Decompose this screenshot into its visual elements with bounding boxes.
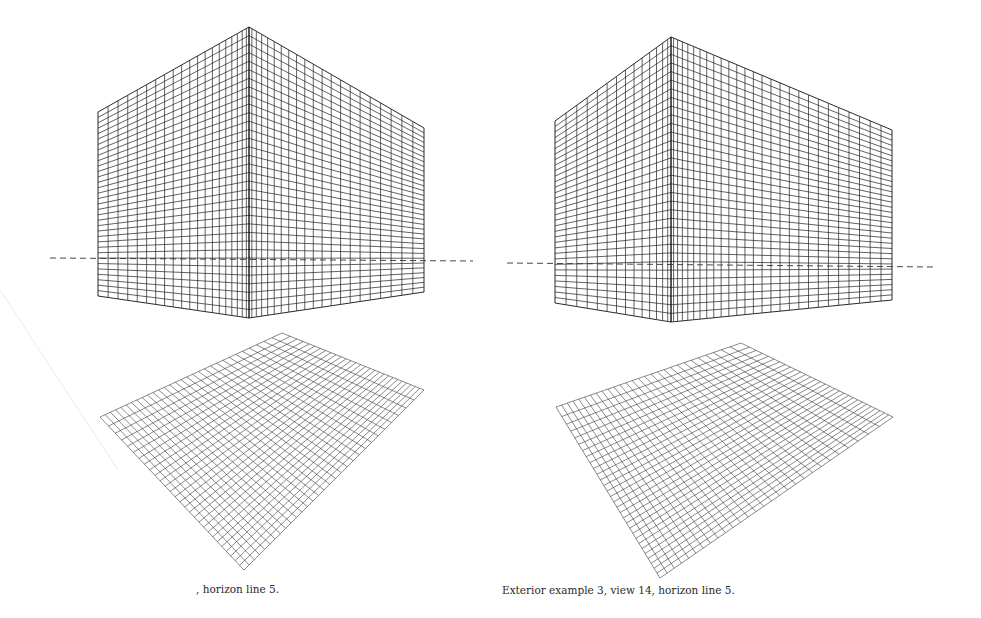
wall-grid-horizontal-line — [671, 274, 892, 279]
wall-grid-horizontal-line — [249, 78, 424, 157]
wall-grid-horizontal-line — [671, 80, 892, 156]
floor-grid-line — [244, 390, 424, 570]
wall-grid-horizontal-line — [555, 132, 671, 182]
wall-grid-horizontal-line — [555, 89, 671, 154]
wall-grid-horizontal-line — [249, 121, 424, 181]
wall-grid-horizontal-line — [249, 164, 424, 205]
floor-grid-line — [148, 395, 291, 523]
wall-grid-horizontal-line — [555, 149, 671, 192]
figure-caption-right: Exterior example 3, view 14, horizon lin… — [502, 584, 735, 596]
figure-left — [50, 27, 473, 570]
two-point-box-left — [98, 27, 424, 318]
floor-grid-line — [126, 405, 270, 544]
floor-grid-line — [185, 367, 366, 507]
wall-grid-horizontal-line — [249, 70, 424, 152]
wall-grid-horizontal-line — [555, 236, 671, 248]
wall-grid-horizontal-line — [671, 236, 892, 249]
wall-grid-horizontal-line — [671, 300, 892, 322]
wall-grid-horizontal-line — [555, 303, 671, 322]
wall-grid-horizontal-line — [555, 192, 671, 220]
floor-grid-line — [100, 333, 282, 417]
floor-grid-line — [226, 383, 406, 551]
wall-grid-horizontal-line — [555, 97, 671, 159]
wall-grid-horizontal-line — [671, 132, 892, 187]
wall-grid-horizontal-line — [249, 198, 424, 224]
wall-grid-horizontal-line — [671, 54, 892, 140]
floor-grid-line — [706, 355, 849, 448]
wall-grid-horizontal-line — [249, 138, 424, 190]
wall-grid-horizontal-line — [671, 89, 892, 161]
wall-grid-horizontal-line — [249, 27, 424, 128]
floor-grid-line — [556, 407, 660, 578]
wall-grid-horizontal-line — [671, 46, 892, 136]
wall-grid-horizontal-line — [249, 87, 424, 162]
floor-grid-line — [282, 333, 424, 390]
wall-grid-horizontal-line — [555, 244, 671, 253]
wall-grid-horizontal-line — [671, 141, 892, 192]
figure-caption-left: , horizon line 5. — [196, 583, 279, 595]
wall-grid-horizontal-line — [249, 53, 424, 143]
floor-grid-line — [562, 405, 667, 573]
wall-grid-horizontal-line — [555, 72, 671, 144]
wall-grid-horizontal-line — [249, 95, 424, 166]
wall-grid-horizontal-line — [249, 181, 424, 215]
floor-grid-line — [236, 354, 379, 435]
floor-grid-line — [198, 372, 341, 473]
perspective-diagram-canvas — [0, 0, 981, 618]
floor-grid-line — [223, 360, 366, 448]
floor-grid-left — [100, 333, 424, 570]
wall-grid-horizontal-line — [249, 147, 424, 196]
wall-grid-horizontal-line — [249, 44, 424, 138]
wall-grid-horizontal-line — [555, 63, 671, 138]
wall-grid-horizontal-line — [555, 184, 671, 215]
wall-grid-horizontal-line — [555, 37, 671, 121]
wall-grid-horizontal-line — [249, 250, 424, 254]
wall-grid-horizontal-line — [555, 106, 671, 165]
floor-grid-line — [664, 370, 796, 484]
paper-smudge-line — [0, 290, 118, 470]
wall-grid-horizontal-line — [249, 36, 424, 133]
wall-grid-horizontal-line — [249, 113, 424, 177]
floor-grid-line — [153, 393, 296, 518]
figure-right — [507, 37, 935, 578]
wall-grid-horizontal-line — [671, 290, 892, 305]
wall-grid-horizontal-line — [555, 123, 671, 176]
wall-grid-horizontal-line — [249, 292, 424, 318]
floor-grid-line — [272, 338, 414, 400]
wall-grid-horizontal-line — [671, 262, 892, 264]
floor-grid-line — [235, 387, 415, 561]
floor-grid-line — [556, 343, 741, 407]
wall-grid-horizontal-line — [555, 227, 671, 242]
wall-grid-horizontal-line — [555, 54, 671, 132]
floor-grid-line — [121, 407, 265, 549]
wall-grid-horizontal-line — [555, 275, 671, 278]
floor-grid-line — [638, 379, 763, 507]
wall-grid-horizontal-line — [555, 281, 671, 288]
wall-grid-horizontal-line — [249, 104, 424, 171]
wall-grid-horizontal-line — [555, 218, 671, 236]
floor-grid-line — [721, 350, 868, 434]
wall-grid-horizontal-line — [555, 210, 671, 232]
floor-grid-line — [204, 369, 347, 467]
floor-grid-line — [108, 336, 290, 426]
wall-grid-horizontal-line — [671, 115, 892, 177]
wall-grid-horizontal-line — [671, 192, 892, 222]
wall-grid-horizontal-line — [249, 263, 424, 267]
wall-grid-horizontal-line — [555, 292, 671, 305]
wall-grid-horizontal-line — [671, 184, 892, 218]
floor-grid-line — [175, 363, 356, 497]
wall-grid-horizontal-line — [555, 115, 671, 171]
wall-grid-horizontal-line — [555, 286, 671, 296]
wall-grid-horizontal-line — [249, 130, 424, 186]
wall-grid-horizontal-line — [671, 175, 892, 212]
floor-grid-line — [122, 342, 304, 440]
wall-grid-horizontal-line — [671, 201, 892, 228]
wall-grid-horizontal-line — [555, 253, 671, 259]
floor-grid-line — [614, 387, 733, 528]
floor-grid-line — [170, 361, 351, 492]
wall-grid-horizontal-line — [671, 158, 892, 202]
floor-grid-line — [626, 383, 748, 517]
floor-grid-line — [231, 385, 411, 556]
floor-grid-line — [229, 357, 372, 442]
wall-grid-horizontal-line — [249, 61, 424, 147]
